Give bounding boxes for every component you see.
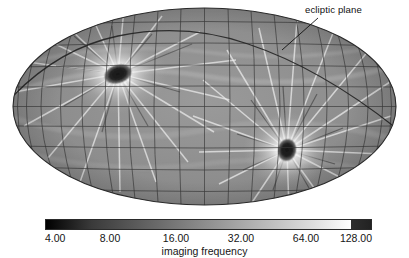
all-sky-imaging-frequency-figure: ecliptic plane 4.008.0016.0032.0064.0012… xyxy=(0,0,409,258)
colorbar-tick-0: 4.00 xyxy=(45,232,65,244)
sky-map-canvas xyxy=(0,0,409,212)
colorbar: 4.008.0016.0032.0064.00128.00 imaging fr… xyxy=(0,214,409,258)
map-vignette xyxy=(0,0,409,212)
colorbar-tick-labels: 4.008.0016.0032.0064.00128.00 xyxy=(0,232,409,246)
colorbar-tick-3: 32.00 xyxy=(211,232,271,244)
colorbar-tick-2: 16.00 xyxy=(146,232,206,244)
colorbar-title: imaging frequency xyxy=(0,245,409,257)
sky-map-content xyxy=(0,0,409,212)
colorbar-tick-5: 128.00 xyxy=(332,232,372,244)
sky-map xyxy=(0,0,409,212)
colorbar-gradient xyxy=(45,219,372,230)
colorbar-tick-4: 64.00 xyxy=(276,232,336,244)
ecliptic-plane-label: ecliptic plane xyxy=(305,4,362,15)
colorbar-tick-1: 8.00 xyxy=(80,232,140,244)
